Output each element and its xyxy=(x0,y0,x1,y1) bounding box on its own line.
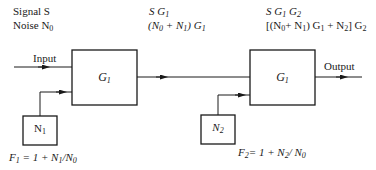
noise2-label: N2 xyxy=(201,121,235,133)
input-noise-label: Noise N0 xyxy=(13,19,53,31)
amp2-label: G1 xyxy=(250,70,315,85)
stage2-signal-label: S G1 G2 xyxy=(266,5,301,17)
input-signal-label: Signal S xyxy=(13,5,50,17)
stage1-signal-label: S G1 xyxy=(149,5,169,17)
noise2-feed-line xyxy=(218,95,250,115)
amp1-label: G1 xyxy=(72,70,137,85)
noise1-label: N1 xyxy=(23,122,57,134)
noise1-feed-line xyxy=(40,92,72,116)
stage2-noise-label: [(N0+ N1) G1 + N2] G2 xyxy=(266,19,367,31)
input-label: Input xyxy=(33,52,56,64)
noise-figure-1: F1 = 1 + N1/N0 xyxy=(9,151,77,163)
output-label: Output xyxy=(324,60,355,72)
noise-figure-2: F2= 1 + N2/ N0 xyxy=(238,146,306,158)
stage1-noise-label: (N0 + N1) G1 xyxy=(148,19,206,31)
